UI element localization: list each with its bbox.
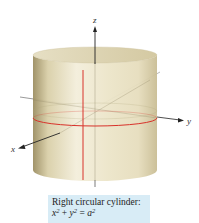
x-axis-arrow-icon (18, 145, 26, 150)
cylinder-figure: z y x (0, 0, 199, 223)
eq-exp-a: 2 (92, 207, 95, 214)
x-axis-label: x (10, 144, 15, 154)
z-axis-arrow-icon (93, 26, 97, 32)
z-axis-label: z (92, 15, 97, 25)
eq-equals: = (77, 208, 87, 218)
eq-plus: + (59, 208, 69, 218)
y-axis-arrow-icon (178, 118, 184, 123)
caption-title: Right circular cylinder: (52, 197, 150, 208)
caption-equation: x2 + y2 = a2 (52, 208, 150, 219)
y-axis-label: y (186, 116, 191, 126)
y-axis (157, 117, 180, 120)
caption-box: Right circular cylinder: x2 + y2 = a2 (48, 195, 150, 223)
